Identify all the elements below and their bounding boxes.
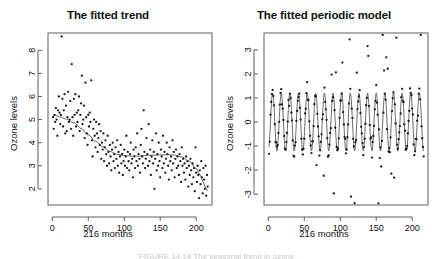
svg-text:-3: -3 [243,190,253,198]
svg-text:8: 8 [27,48,37,53]
svg-text:2: 2 [27,186,37,191]
svg-text:3: 3 [243,47,253,52]
svg-text:5: 5 [27,117,37,122]
svg-text:6: 6 [27,94,37,99]
svg-text:1: 1 [243,95,253,100]
panel-fitted-trend: The fitted trend Ozone levels 0501001502… [0,0,216,259]
svg-text:4: 4 [27,140,37,145]
svg-text:-2: -2 [243,166,253,174]
figure-caption: FIGURE 14.14 The seasonal trend in ozone [0,252,433,259]
ozone-figure: The fitted trend Ozone levels 0501001502… [0,0,433,259]
panel-left-plot: 0501001502002345678 [0,0,216,259]
panel-fitted-periodic-model: The fitted periodic model Ozone levels 0… [216,0,432,259]
panel-left-xlabel: 216 months [0,228,216,239]
svg-text:-1: -1 [243,142,253,150]
svg-text:0: 0 [243,119,253,124]
svg-text:7: 7 [27,71,37,76]
panel-right-plot: 050100150200-3-2-10123 [216,0,432,259]
panel-right-xlabel: 216 months [216,228,432,239]
svg-text:3: 3 [27,163,37,168]
svg-text:2: 2 [243,71,253,76]
